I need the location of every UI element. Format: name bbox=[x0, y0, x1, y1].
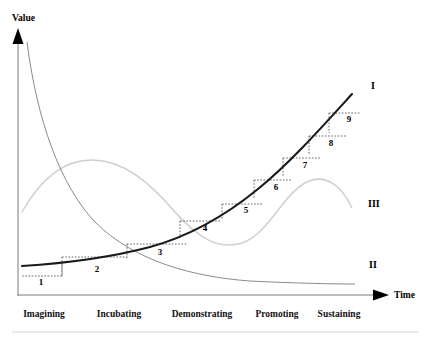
curve-identifier-labels: IIIIII bbox=[368, 80, 380, 270]
phase-label-demonstrating: Demonstrating bbox=[172, 309, 233, 319]
curve-label-III: III bbox=[368, 198, 380, 209]
step-number-3: 3 bbox=[158, 247, 163, 257]
x-axis-title: Time bbox=[394, 290, 415, 300]
value-axis-arrowhead bbox=[13, 28, 24, 44]
step-number-6: 6 bbox=[274, 182, 279, 192]
step-number-2: 2 bbox=[95, 264, 100, 274]
y-axis-title: Value bbox=[12, 13, 35, 23]
time-axis bbox=[18, 290, 389, 301]
diagram-container: Value Time ImaginingIncubatingDemonstrat… bbox=[0, 0, 429, 344]
step-number-labels: 123456789 bbox=[39, 114, 352, 287]
step-number-8: 8 bbox=[329, 138, 334, 148]
curve-III-wave bbox=[22, 160, 352, 245]
phase-label-incubating: Incubating bbox=[97, 309, 142, 319]
curve-label-I: I bbox=[371, 80, 375, 91]
step-number-9: 9 bbox=[347, 114, 352, 124]
step-number-5: 5 bbox=[244, 205, 249, 215]
step-number-7: 7 bbox=[303, 160, 308, 170]
value-axis bbox=[13, 28, 24, 296]
step-staircase bbox=[22, 113, 360, 276]
phase-label-imagining: Imagining bbox=[23, 309, 65, 319]
step-number-1: 1 bbox=[39, 277, 44, 287]
time-axis-arrowhead bbox=[373, 290, 389, 301]
phase-label-sustaining: Sustaining bbox=[318, 309, 361, 319]
phase-label-promoting: Promoting bbox=[255, 309, 298, 319]
curve-I-growth bbox=[22, 94, 352, 266]
step-number-4: 4 bbox=[203, 223, 208, 233]
curve-label-II: II bbox=[369, 259, 377, 270]
innovation-value-curve-diagram: Value Time ImaginingIncubatingDemonstrat… bbox=[0, 0, 429, 344]
phase-labels: ImaginingIncubatingDemonstratingPromotin… bbox=[23, 309, 360, 319]
